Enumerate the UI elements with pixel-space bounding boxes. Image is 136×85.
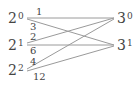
left-node-2-0: 20 [8,11,24,25]
edge-label-2: 2 [30,32,36,42]
edge-label-1: 1 [36,7,42,17]
node-base: 3 [117,10,126,26]
node-exponent: 1 [18,38,24,48]
edge-2-0-to-3-1 [27,19,114,45]
right-node-3-1: 31 [117,38,133,52]
node-base: 3 [117,37,126,53]
left-node-2-2: 22 [8,63,24,77]
node-exponent: 0 [18,11,24,21]
node-exponent: 2 [18,63,24,73]
edge-2-2-to-3-1 [27,46,114,71]
edge-label-4: 4 [30,57,36,67]
node-exponent: 0 [127,11,133,21]
edge-label-6: 6 [30,46,36,56]
right-node-3-0: 30 [117,11,133,25]
edge-2-1-to-3-0 [27,18,114,43]
node-base: 2 [8,62,17,78]
left-node-2-1: 21 [8,38,24,52]
node-base: 2 [8,10,17,26]
edge-2-2-to-3-0 [27,19,114,69]
node-exponent: 1 [127,38,133,48]
node-base: 2 [8,37,17,53]
edge-label-12: 12 [33,72,46,82]
